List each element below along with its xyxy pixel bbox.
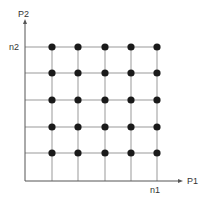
grid-point-dot [127, 123, 134, 130]
grid-point-dot [127, 96, 134, 103]
grid-point-dot [127, 149, 134, 156]
grid-point-dot [74, 149, 81, 156]
grid-point-dot [101, 149, 108, 156]
grid-point-dot [153, 96, 160, 103]
grid-point-dot [153, 149, 160, 156]
grid-point-dot [127, 43, 134, 50]
grid-point-dot [48, 149, 55, 156]
grid-point-dot [153, 123, 160, 130]
grid-point-dot [48, 43, 55, 50]
grid-point-dot [101, 123, 108, 130]
grid-point-dot [48, 69, 55, 76]
grid-point-dot [153, 43, 160, 50]
y-axis-arrow-icon [23, 19, 27, 24]
y-tick-label-n2: n2 [9, 42, 19, 52]
grid-point-dot [101, 96, 108, 103]
grid-point-diagram: P2 P1 n2 n1 [0, 0, 204, 201]
grid-point-dot [153, 69, 160, 76]
y-axis-label: P2 [18, 9, 29, 19]
grid-point-dot [74, 69, 81, 76]
grid-point-dot [48, 96, 55, 103]
grid-point-dot [74, 123, 81, 130]
grid-point-dot [101, 69, 108, 76]
grid-point-dot [101, 43, 108, 50]
grid-point-dot [127, 69, 134, 76]
grid-point-dot [74, 96, 81, 103]
grid-point-dot [48, 123, 55, 130]
x-axis-label: P1 [187, 176, 198, 186]
grid-point-dot [74, 43, 81, 50]
x-tick-label-n1: n1 [150, 185, 160, 195]
grid-lines [25, 47, 157, 181]
x-axis-arrow-icon [178, 179, 183, 183]
